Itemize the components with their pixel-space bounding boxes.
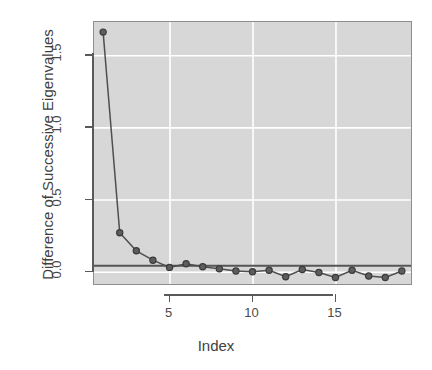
y-axis-title: Difference of Successive Eigenvalues — [39, 5, 56, 305]
y-tick-mark — [85, 54, 93, 56]
plot-panel — [93, 21, 412, 285]
y-tick-mark — [85, 271, 93, 273]
plot-canvas — [94, 22, 411, 284]
y-tick-mark — [85, 199, 93, 201]
x-axis-title: Index — [0, 337, 432, 354]
y-axis-line — [92, 53, 94, 272]
y-tick-mark — [85, 126, 93, 128]
x-axis-line — [164, 294, 333, 296]
x-tick-label: 15 — [315, 305, 355, 320]
x-tick-label: 5 — [149, 305, 189, 320]
x-tick-mark — [169, 294, 171, 302]
chart-figure: 0.00.51.01.5 51015 Index Difference of S… — [0, 0, 432, 370]
gridlines — [94, 22, 411, 284]
x-tick-mark — [252, 294, 254, 302]
x-tick-label: 10 — [232, 305, 272, 320]
x-tick-mark — [335, 294, 337, 302]
